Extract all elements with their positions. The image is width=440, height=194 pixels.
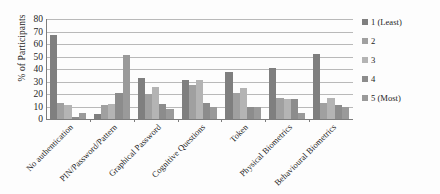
bar <box>247 107 254 120</box>
y-axis-tick-label: 0 <box>38 114 43 124</box>
bar <box>115 93 122 119</box>
bar <box>240 88 247 119</box>
y-axis-title: % of Participants <box>17 0 27 103</box>
bar <box>320 103 327 119</box>
y-axis-tick-label: 30 <box>34 77 44 87</box>
gridline <box>46 119 353 120</box>
legend-label: 4 <box>371 74 375 84</box>
bar <box>72 117 79 120</box>
bar-groups <box>46 19 353 119</box>
bar <box>159 104 166 119</box>
legend-swatch-icon <box>362 57 368 63</box>
y-axis-tick-label: 40 <box>34 64 44 74</box>
bar <box>152 87 159 120</box>
bar <box>57 103 64 119</box>
legend-item[interactable]: 5 (Most) <box>362 93 402 103</box>
bar-group <box>178 19 222 119</box>
bar <box>254 107 261 120</box>
y-axis-tick-label: 70 <box>34 27 44 37</box>
legend-item[interactable]: 4 <box>362 74 402 84</box>
bar <box>327 98 334 119</box>
legend-swatch-icon <box>362 76 368 82</box>
bar <box>225 72 232 120</box>
bar-group <box>90 19 134 119</box>
bar <box>108 104 115 119</box>
y-axis-tick-label: 80 <box>34 14 44 24</box>
bar <box>203 103 210 119</box>
bar <box>298 113 305 119</box>
bar <box>269 68 276 119</box>
bar <box>284 99 291 119</box>
bar-group <box>134 19 178 119</box>
y-axis-tick-label: 60 <box>34 39 44 49</box>
legend-swatch-icon <box>362 95 368 101</box>
bar-group <box>46 19 90 119</box>
bar <box>101 105 108 119</box>
bar-group <box>221 19 265 119</box>
legend-swatch-icon <box>362 19 368 25</box>
x-axis-tick-labels: No authenticationPIN/Password/PatternGra… <box>46 122 353 192</box>
bar <box>166 109 173 119</box>
x-axis-tick-label: Token <box>228 122 250 144</box>
legend-item[interactable]: 2 <box>362 36 402 46</box>
plot-area: 01020304050607080 <box>46 19 353 119</box>
bar <box>196 80 203 119</box>
bar-group <box>309 19 353 119</box>
bar <box>210 107 217 120</box>
legend-label: 5 (Most) <box>371 93 401 103</box>
y-axis-tick-label: 50 <box>34 52 44 62</box>
legend-swatch-icon <box>362 38 368 44</box>
bar <box>189 85 196 119</box>
legend-label: 2 <box>371 36 375 46</box>
legend-label: 1 (Least) <box>371 17 402 27</box>
legend-item[interactable]: 3 <box>362 55 402 65</box>
bar <box>291 99 298 119</box>
bar <box>335 105 342 119</box>
bar-group <box>265 19 309 119</box>
bar <box>123 55 130 119</box>
bar <box>94 114 101 119</box>
bar <box>313 54 320 119</box>
chart-figure: % of Participants 01020304050607080 No a… <box>0 0 440 194</box>
bar <box>138 78 145 119</box>
y-axis-tick-label: 20 <box>34 89 44 99</box>
chart-legend: 1 (Least)2345 (Most) <box>362 17 402 103</box>
bar <box>64 105 71 119</box>
y-axis-tick-label: 10 <box>34 102 44 112</box>
bar <box>233 93 240 119</box>
bar <box>276 98 283 119</box>
legend-item[interactable]: 1 (Least) <box>362 17 402 27</box>
bar <box>342 107 349 120</box>
bar <box>50 35 57 119</box>
legend-label: 3 <box>371 55 375 65</box>
bar <box>182 80 189 119</box>
bar <box>145 94 152 119</box>
bar <box>79 113 86 119</box>
